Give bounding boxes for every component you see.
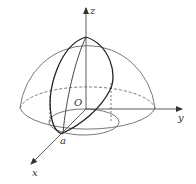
x-axis — [31, 109, 86, 164]
hemisphere-diagram: z y x O a — [0, 0, 196, 184]
projection-circle — [49, 109, 119, 135]
equator-front — [20, 108, 155, 129]
x-axis-label: x — [32, 167, 38, 178]
curve-front — [50, 37, 86, 133]
point-a-label: a — [60, 135, 66, 146]
equator-back-dashed — [20, 87, 155, 108]
hemisphere-outline — [20, 46, 155, 108]
z-axis-label: z — [89, 5, 96, 16]
y-axis-label: y — [177, 112, 184, 123]
origin-label: O — [74, 97, 82, 108]
